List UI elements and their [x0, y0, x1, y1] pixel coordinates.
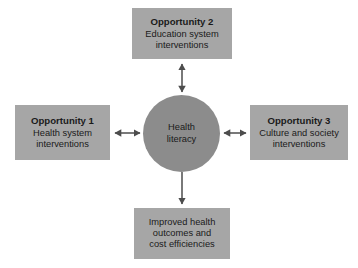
- center-node-health-literacy: Health literacy: [143, 95, 220, 172]
- health-literacy-diagram: Opportunity 1 Health system intervention…: [0, 0, 358, 268]
- center-node-line2: literacy: [167, 134, 196, 145]
- center-node-line1: Health: [168, 122, 195, 133]
